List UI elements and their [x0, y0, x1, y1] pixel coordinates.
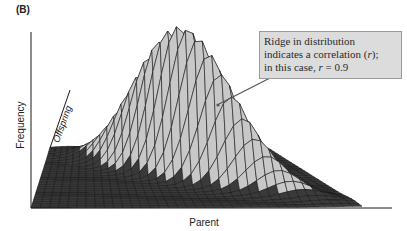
mesh-cell [122, 203, 132, 205]
mesh-cell [121, 197, 130, 199]
mesh-cell [79, 176, 87, 178]
mesh-cell [158, 203, 168, 205]
mesh-cell [78, 191, 86, 193]
mesh-cell [95, 204, 104, 206]
mesh-cell [166, 201, 176, 203]
mesh-cell [56, 176, 64, 178]
mesh-cell [71, 172, 79, 174]
mesh-cell [77, 204, 86, 206]
mesh-cell [38, 184, 47, 186]
mesh-cell [171, 195, 181, 197]
mesh-cell [61, 191, 70, 193]
mesh-cell [63, 180, 71, 182]
mesh-cell [145, 193, 154, 195]
mesh-cell [95, 199, 104, 201]
mesh-cell [137, 193, 146, 195]
mesh-cell [129, 197, 138, 199]
mesh-cell [140, 203, 150, 205]
mesh-cell [71, 180, 79, 182]
mesh-cell [120, 193, 129, 195]
mesh-cell [113, 203, 122, 205]
mesh-cell [77, 199, 86, 201]
callout-line-2: indicates a correlation (r); [264, 48, 397, 61]
mesh-cell [49, 172, 57, 174]
mesh-cell [71, 178, 79, 180]
mesh-cell [69, 191, 78, 193]
callout-text: in this case, [264, 61, 318, 73]
mesh-cell [41, 204, 51, 206]
mesh-cell [36, 191, 45, 193]
mesh-cell [62, 187, 70, 189]
mesh-cell [41, 174, 49, 176]
mesh-cell [120, 195, 129, 197]
mesh-cell [139, 199, 149, 201]
mesh-cell [42, 199, 51, 201]
mesh-cell [102, 184, 110, 186]
mesh-cell [185, 203, 195, 205]
mesh-cell [126, 184, 135, 186]
mesh-cell [54, 184, 62, 186]
mesh-cell [109, 178, 117, 180]
mesh-cell [51, 197, 60, 199]
mesh-cell [112, 197, 121, 199]
mesh-cell [133, 182, 142, 184]
mesh-cell [44, 191, 53, 193]
mesh-cell [121, 199, 130, 201]
mesh-cell [155, 197, 165, 199]
mesh-cell [95, 201, 104, 203]
mesh-cell [112, 199, 121, 201]
mesh-cell [143, 186, 152, 188]
mesh-cell [130, 199, 139, 201]
mesh-cell [117, 180, 125, 182]
mesh-cell [95, 197, 104, 199]
mesh-cell [43, 167, 51, 169]
mesh-cell [118, 182, 126, 184]
mesh-cell [47, 180, 55, 182]
mesh-cell [123, 206, 133, 208]
mesh-cell [135, 188, 144, 190]
mesh-cell [153, 191, 162, 193]
mesh-cell [39, 180, 47, 182]
mesh-cell [86, 176, 94, 178]
mesh-cell [68, 199, 77, 201]
parent-axis-label: Parent [189, 217, 218, 228]
mesh-cell [148, 201, 158, 203]
mesh-cell [53, 187, 62, 189]
mesh-cell [160, 188, 169, 190]
mesh-cell [162, 193, 172, 195]
mesh-cell [69, 193, 78, 195]
mesh-cell [78, 180, 86, 182]
mesh-cell [57, 172, 65, 174]
mesh-cell [86, 178, 94, 180]
mesh-cell [137, 195, 146, 197]
mesh-cell [136, 191, 145, 193]
mesh-cell [144, 188, 153, 190]
mesh-cell [141, 181, 150, 184]
mesh-cell [69, 195, 78, 197]
mesh-cell [61, 193, 70, 195]
mesh-cell [56, 174, 64, 176]
mesh-cell [79, 174, 87, 176]
mesh-cell [35, 193, 44, 195]
mesh-cell [50, 169, 58, 171]
mesh-cell [102, 178, 110, 180]
mesh-cell [169, 190, 179, 192]
mesh-cell [135, 186, 144, 188]
mesh-cell [57, 169, 65, 171]
mesh-cell [103, 193, 112, 195]
mesh-cell [112, 195, 121, 197]
mesh-cell [127, 188, 136, 190]
mesh-cell [33, 199, 42, 201]
mesh-cell [64, 174, 72, 176]
mesh-cell [147, 199, 157, 201]
mesh-cell [79, 169, 86, 171]
mesh-cell [78, 182, 86, 184]
mesh-cell [43, 195, 52, 197]
mesh-cell [94, 171, 102, 174]
mesh-cell [53, 189, 62, 191]
mesh-cell [186, 205, 196, 207]
mesh-cell [127, 186, 136, 188]
mesh-cell [58, 163, 65, 165]
mesh-cell [61, 189, 70, 191]
mesh-cell [111, 193, 120, 195]
